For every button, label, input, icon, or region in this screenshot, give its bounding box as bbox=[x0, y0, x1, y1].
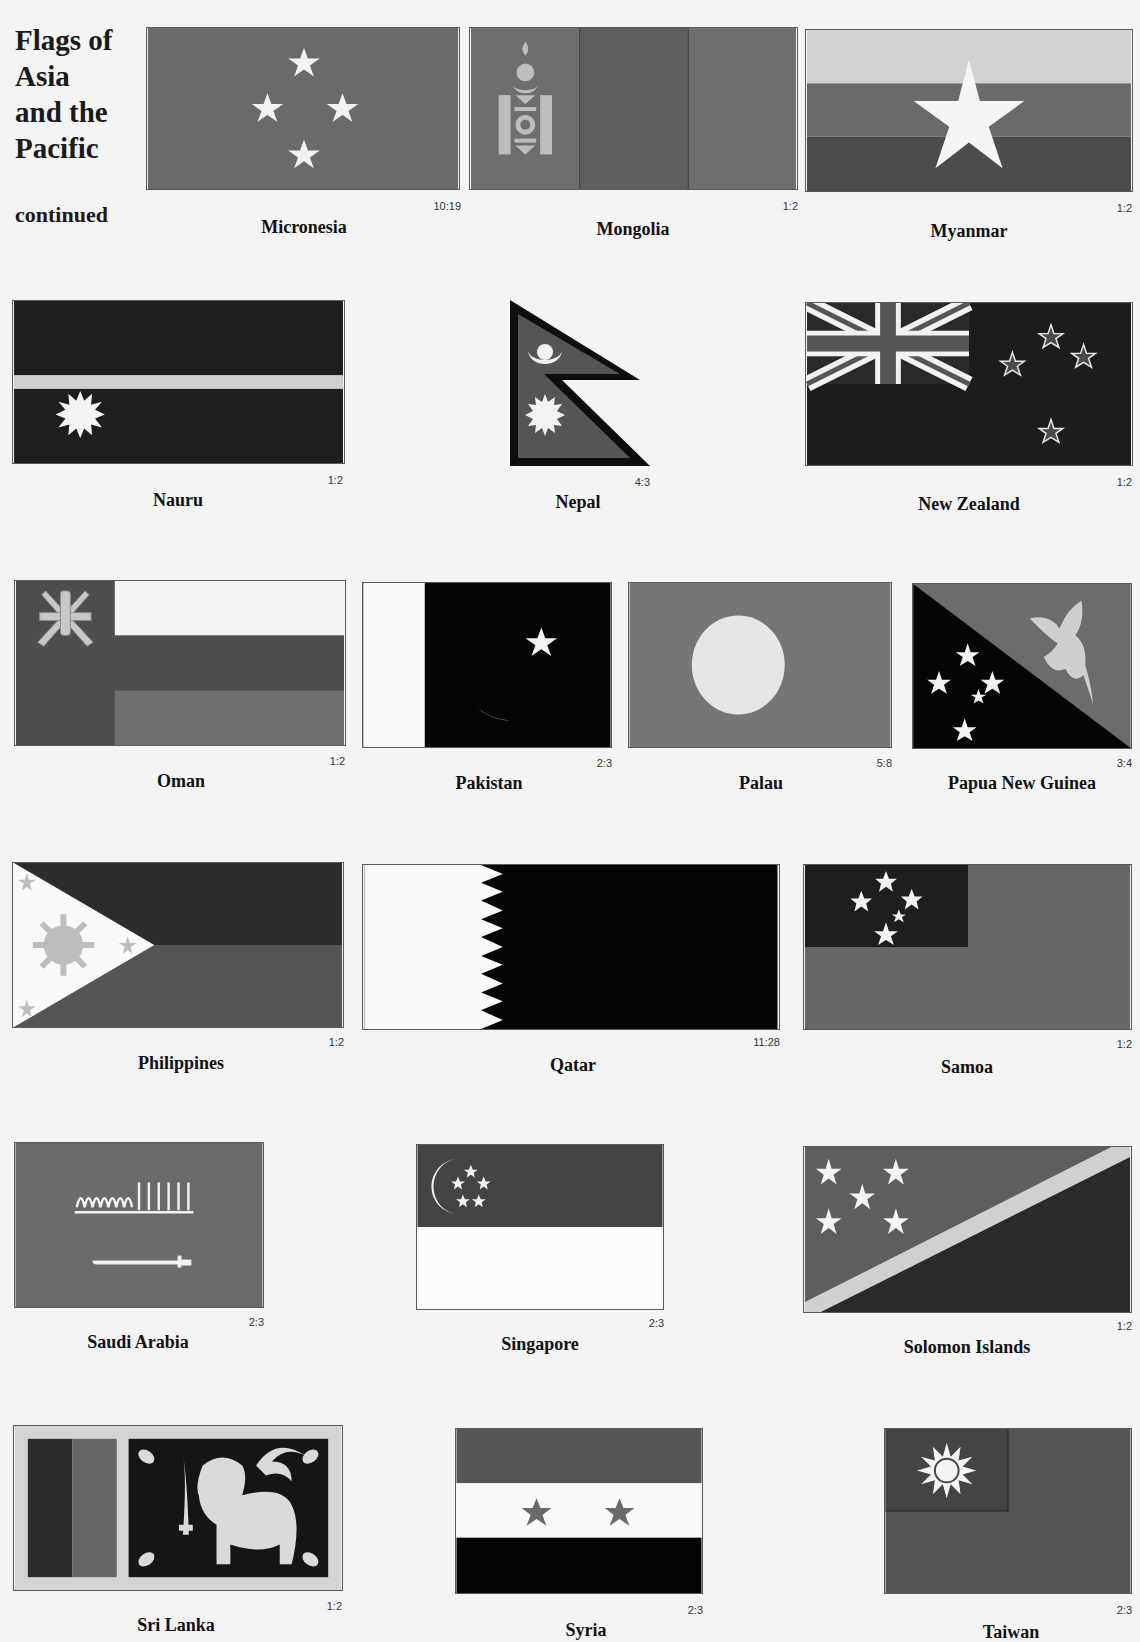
title-line: Pacific bbox=[15, 130, 112, 166]
aspect-ratio: 2:3 bbox=[1072, 1604, 1132, 1616]
flag-nepal bbox=[510, 300, 650, 466]
flag-name: Mongolia bbox=[596, 219, 669, 240]
flag-name: Samoa bbox=[941, 1057, 993, 1078]
sun-icon bbox=[33, 914, 94, 975]
qatar-flag-image bbox=[363, 865, 779, 1029]
aspect-ratio: 3:4 bbox=[1072, 757, 1132, 769]
saudi-arabia-flag-image bbox=[15, 1143, 263, 1307]
pakistan-flag-image bbox=[363, 583, 611, 747]
flag-myanmar bbox=[805, 29, 1133, 192]
flag-name: Syria bbox=[565, 1620, 606, 1641]
flag-philippines bbox=[12, 862, 344, 1028]
flag-saudi-arabia bbox=[14, 1142, 264, 1308]
flag-name: Qatar bbox=[550, 1055, 596, 1076]
flag-new-zealand bbox=[805, 302, 1133, 466]
union-jack-icon bbox=[807, 303, 969, 384]
flag-sri-lanka bbox=[13, 1425, 343, 1591]
aspect-ratio: 10:19 bbox=[401, 200, 461, 212]
aspect-ratio: 1:2 bbox=[1072, 1320, 1132, 1332]
syria-flag-image bbox=[456, 1429, 702, 1593]
flag-name: Palau bbox=[739, 773, 783, 794]
aspect-ratio: 1:2 bbox=[282, 1600, 342, 1612]
flag-mongolia bbox=[469, 27, 798, 190]
myanmar-flag-image bbox=[806, 30, 1132, 191]
flag-singapore bbox=[416, 1144, 664, 1310]
flag-name: Pakistan bbox=[455, 773, 522, 794]
flag-name: Papua New Guinea bbox=[948, 773, 1096, 794]
nauru-flag-image bbox=[13, 301, 344, 463]
flag-qatar bbox=[362, 864, 780, 1030]
flag-name: New Zealand bbox=[918, 494, 1020, 515]
mongolia-flag-image bbox=[470, 28, 797, 189]
new-zealand-flag-image bbox=[806, 303, 1132, 465]
samoa-flag-image bbox=[804, 865, 1131, 1029]
aspect-ratio: 2:3 bbox=[643, 1604, 703, 1616]
solomon-islands-flag-image bbox=[804, 1147, 1131, 1312]
flag-oman bbox=[14, 580, 346, 746]
flag-name: Singapore bbox=[501, 1334, 579, 1355]
flag-name: Nauru bbox=[153, 490, 203, 511]
flag-name: Philippines bbox=[138, 1053, 224, 1074]
flag-nauru bbox=[12, 300, 345, 464]
flag-name: Micronesia bbox=[261, 217, 347, 238]
title-line: Asia bbox=[15, 58, 112, 94]
aspect-ratio: 2:3 bbox=[604, 1317, 664, 1329]
nepal-flag-image bbox=[510, 300, 650, 466]
aspect-ratio: 1:2 bbox=[283, 474, 343, 486]
flag-name: Taiwan bbox=[983, 1622, 1039, 1642]
flag-name: Myanmar bbox=[931, 221, 1008, 242]
flag-name: Saudi Arabia bbox=[87, 1332, 189, 1353]
flag-syria bbox=[455, 1428, 703, 1594]
micronesia-flag-image bbox=[147, 28, 459, 189]
flag-name: Oman bbox=[157, 771, 205, 792]
aspect-ratio: 1:2 bbox=[1072, 476, 1132, 488]
flag-micronesia bbox=[146, 27, 460, 190]
flag-pakistan bbox=[362, 582, 612, 748]
page-title: Flags of Asia and the Pacific bbox=[15, 22, 112, 166]
palau-flag-image bbox=[629, 583, 891, 747]
flag-samoa bbox=[803, 864, 1132, 1030]
flag-name: Nepal bbox=[556, 492, 601, 513]
aspect-ratio: 1:2 bbox=[284, 1036, 344, 1048]
oman-flag-image bbox=[15, 581, 345, 745]
aspect-ratio: 1:2 bbox=[1072, 202, 1132, 214]
aspect-ratio: 5:8 bbox=[832, 757, 892, 769]
flag-name: Solomon Islands bbox=[904, 1337, 1031, 1358]
title-line: Flags of bbox=[15, 22, 112, 58]
taiwan-flag-image bbox=[885, 1429, 1131, 1593]
flag-name: Sri Lanka bbox=[137, 1615, 215, 1636]
philippines-flag-image bbox=[13, 863, 343, 1027]
aspect-ratio: 1:2 bbox=[1072, 1038, 1132, 1050]
aspect-ratio: 2:3 bbox=[204, 1316, 264, 1328]
sri-lanka-flag-image bbox=[14, 1426, 342, 1590]
flag-taiwan bbox=[884, 1428, 1132, 1594]
singapore-flag-image bbox=[417, 1145, 663, 1309]
moon-disc-icon bbox=[692, 616, 785, 715]
papua-new-guinea-flag-image bbox=[913, 584, 1131, 748]
aspect-ratio: 1:2 bbox=[738, 200, 798, 212]
flag-solomon-islands bbox=[803, 1146, 1132, 1313]
aspect-ratio: 2:3 bbox=[552, 757, 612, 769]
flag-papua-new-guinea bbox=[912, 583, 1132, 749]
aspect-ratio: 1:2 bbox=[285, 755, 345, 767]
title-line: and the bbox=[15, 94, 112, 130]
aspect-ratio: 11:28 bbox=[720, 1036, 780, 1048]
flag-palau bbox=[628, 582, 892, 748]
aspect-ratio: 4:3 bbox=[590, 476, 650, 488]
continued-label: continued bbox=[15, 202, 108, 228]
